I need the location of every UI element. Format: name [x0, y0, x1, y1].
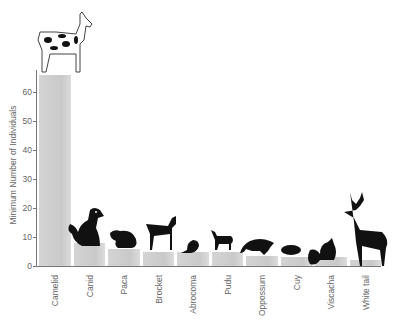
x-category-label: Oppossum [257, 275, 267, 327]
y-tick-label: 0 [14, 261, 32, 271]
guinea-pig-icon [280, 244, 302, 256]
x-category-label: Pudu [223, 275, 233, 327]
abrocoma-icon [179, 238, 201, 254]
llama-icon [36, 10, 98, 74]
x-category-label: White tail [361, 275, 371, 327]
x-category-label: Canid [85, 275, 95, 327]
dog-icon [66, 206, 106, 248]
bar [108, 249, 140, 266]
y-tick-label: 10 [14, 232, 32, 242]
y-tick-label: 60 [14, 87, 32, 97]
y-tick-label: 20 [14, 203, 32, 213]
x-category-label: Cuy [292, 275, 302, 327]
y-tick-label: 50 [14, 116, 32, 126]
y-axis-line [36, 70, 37, 267]
viscacha-icon [306, 238, 338, 266]
y-tick-label: 40 [14, 145, 32, 155]
bar [212, 252, 244, 267]
paca-icon [108, 227, 138, 249]
x-axis-line [36, 266, 381, 267]
x-category-label: Abrocoma [188, 275, 198, 327]
x-category-label: Brocket [154, 275, 164, 327]
y-tick-label: 30 [14, 174, 32, 184]
pudu-icon [209, 228, 235, 250]
bar [246, 256, 278, 266]
white-tail-deer-icon [342, 190, 392, 266]
x-category-label: Viscacha [326, 275, 336, 327]
x-category-label: Paca [119, 275, 129, 327]
bar [143, 252, 175, 267]
opossum-icon [240, 237, 274, 255]
brocket-deer-icon [144, 214, 178, 250]
x-category-label: Camelid [50, 275, 60, 327]
mni-bar-chart: Minimum Number of Individuals 0102030405… [0, 0, 415, 327]
